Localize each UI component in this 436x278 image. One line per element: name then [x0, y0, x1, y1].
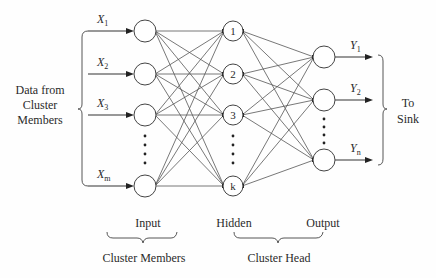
ellipsis-dot	[323, 142, 326, 145]
ellipsis-dot	[144, 144, 147, 147]
ellipsis-dot	[144, 153, 147, 156]
arrowhead-icon	[126, 28, 134, 34]
input-var-label: X3	[96, 96, 108, 112]
ellipsis-dot	[323, 134, 326, 137]
output-var-label: Y2	[350, 81, 361, 97]
ellipsis-dot	[232, 144, 235, 147]
arrowhead-icon	[126, 71, 134, 77]
ellipsis-dot	[144, 162, 147, 165]
ellipsis-dot	[232, 162, 235, 165]
left-brace	[78, 31, 88, 186]
hidden-layer-label: Hidden	[216, 216, 251, 230]
ellipsis-dot	[323, 126, 326, 129]
edge-hidden-output	[242, 31, 314, 160]
ellipsis-dot	[232, 153, 235, 156]
input-node	[134, 20, 156, 42]
right-brace	[378, 55, 387, 165]
cluster-head-brace	[234, 232, 323, 243]
ellipsis-dot	[144, 135, 147, 138]
input-node	[134, 175, 156, 197]
left-label-line-1: Data from	[16, 83, 66, 97]
ellipsis-dot	[232, 135, 235, 138]
hidden-node-label: 2	[230, 68, 236, 80]
input-var-label: X2	[96, 55, 108, 71]
cluster-head-label: Cluster Head	[248, 251, 311, 265]
right-label-line-1: To	[402, 96, 415, 110]
arrowhead-icon	[365, 97, 373, 103]
cluster-members-brace	[107, 232, 177, 243]
network-canvas: X1X2X3XmY1Y2Yn 123k Data from Cluster Me…	[0, 0, 436, 278]
neural-network-diagram: X1X2X3XmY1Y2Yn 123k Data from Cluster Me…	[0, 0, 436, 278]
right-label-line-2: Sink	[397, 112, 419, 126]
input-var-label: X1	[96, 12, 108, 28]
hidden-node-label: 1	[230, 25, 236, 37]
arrowhead-icon	[126, 112, 134, 118]
arrowhead-icon	[365, 54, 373, 60]
edge-hidden-output	[242, 31, 314, 57]
hidden-node-label: 3	[230, 109, 236, 121]
left-label-line-3: Members	[17, 113, 63, 127]
input-var-label: Xm	[96, 167, 111, 183]
input-node	[134, 63, 156, 85]
cluster-members-label: Cluster Members	[103, 251, 186, 265]
output-var-label: Y1	[350, 38, 361, 54]
output-var-label: Yn	[350, 141, 361, 157]
output-node	[313, 46, 335, 68]
ellipsis-dot	[323, 118, 326, 121]
arrowhead-icon	[365, 157, 373, 163]
hidden-node-label: k	[230, 180, 236, 192]
output-layer-label: Output	[306, 216, 340, 230]
output-node	[313, 149, 335, 171]
arrowhead-icon	[126, 183, 134, 189]
output-node	[313, 89, 335, 111]
left-label-line-2: Cluster	[23, 98, 58, 112]
input-node	[134, 104, 156, 126]
input-layer-label: Input	[135, 216, 161, 230]
